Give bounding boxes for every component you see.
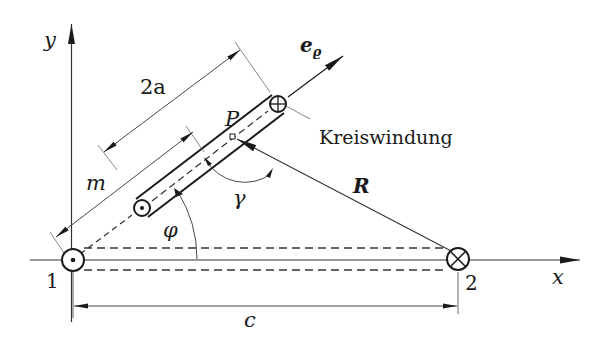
point-P-label: P xyxy=(224,107,240,131)
conductor-2-cross-icon xyxy=(447,248,469,270)
dimension-c xyxy=(73,272,458,318)
y-axis-label: y xyxy=(43,28,57,52)
angle-gamma xyxy=(204,157,273,182)
coil-lower-end-dot-icon xyxy=(134,200,150,216)
R-vector-label: R xyxy=(352,174,370,198)
dimension-m-label: m xyxy=(86,171,106,195)
conductor-band-dashed-lines xyxy=(84,248,447,270)
dimension-2a-label: 2a xyxy=(140,75,166,99)
conductor-1-dot-icon xyxy=(62,249,84,271)
dimension-m xyxy=(50,126,204,253)
coil-leader-line xyxy=(286,106,310,119)
coil-geometry-diagram: y x eϱ 2a m P Kreiswindung R γ φ 1 2 c xyxy=(0,0,603,341)
dimension-2a xyxy=(98,42,270,170)
dimension-c-label: c xyxy=(244,308,256,332)
phi-label: φ xyxy=(163,218,178,242)
x-axis-label: x xyxy=(552,265,564,289)
e-rho-label: eϱ xyxy=(300,33,322,59)
e-rho-arrow xyxy=(288,56,343,97)
gamma-label: γ xyxy=(233,186,246,210)
coil-label: Kreiswindung xyxy=(319,126,453,148)
point-2-label: 2 xyxy=(465,271,478,295)
point-1-label: 1 xyxy=(46,269,59,293)
coil-band xyxy=(136,95,284,217)
point-P-marker xyxy=(230,134,235,139)
coil-upper-end-cross-icon xyxy=(270,96,286,112)
R-vector xyxy=(237,139,455,253)
